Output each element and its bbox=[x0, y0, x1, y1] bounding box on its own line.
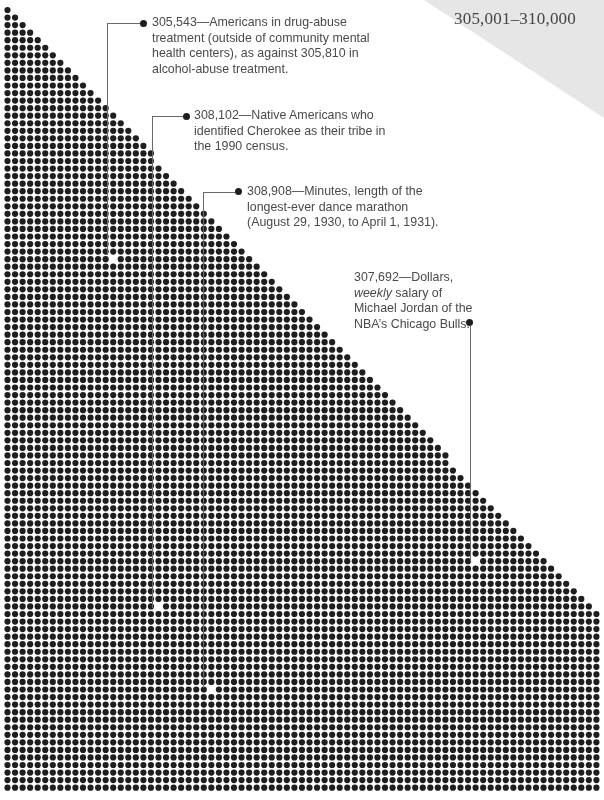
callout-text-pre: 307,692—Dollars, bbox=[354, 270, 453, 284]
callout-308908: 308,908—Minutes, length of the longest-e… bbox=[247, 184, 447, 231]
callout-text: 305,543—Americans in drug-abuse treatmen… bbox=[152, 15, 370, 76]
callout-307692: 307,692—Dollars, weekly salary of Michae… bbox=[354, 270, 484, 332]
leader-line-4-v bbox=[470, 325, 471, 562]
callout-pin-1 bbox=[140, 20, 147, 27]
leader-line-3-v bbox=[203, 192, 204, 688]
callout-text: 308,908—Minutes, length of the longest-e… bbox=[247, 184, 439, 229]
callout-text: 308,102—Native Americans who identified … bbox=[194, 108, 385, 153]
dot-infographic: 305,001–310,000 305,543—Americans in dru… bbox=[0, 0, 604, 800]
callout-pin-2 bbox=[183, 113, 190, 120]
range-title: 305,001–310,000 bbox=[454, 9, 576, 29]
callout-pin-3 bbox=[235, 188, 242, 195]
callout-text-emphasis: weekly bbox=[354, 286, 392, 300]
leader-line-2-h bbox=[152, 116, 184, 117]
leader-line-2-v bbox=[152, 116, 153, 608]
callout-308102: 308,102—Native Americans who identified … bbox=[194, 108, 394, 155]
callout-305543: 305,543—Americans in drug-abuse treatmen… bbox=[152, 15, 387, 77]
leader-line-1-h bbox=[107, 23, 143, 24]
leader-line-1-v bbox=[107, 23, 108, 255]
leader-line-3-h bbox=[203, 192, 237, 193]
